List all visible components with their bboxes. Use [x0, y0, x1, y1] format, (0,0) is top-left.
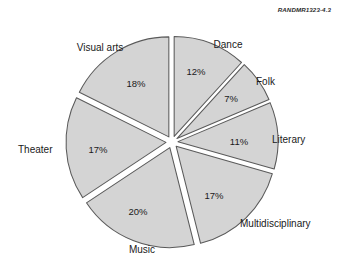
pie-slice-label: Music [129, 244, 155, 255]
pie-slice-label: Dance [214, 39, 243, 50]
pie-slice-label: Theater [18, 144, 53, 155]
pie-chart-figure: RANDMR1323-4.3 12%7%11%17%20%17%18% Danc… [0, 0, 339, 267]
pie-slice-label: Folk [256, 76, 276, 87]
pie-slice-label: Visual arts [77, 42, 124, 53]
pie-slice-value: 12% [186, 66, 206, 77]
pie-slice-value: 11% [230, 136, 249, 147]
pie-slice-value: 18% [126, 78, 146, 89]
pie-slice-value: 17% [204, 190, 224, 201]
pie-slice-label: Multidisciplinary [240, 218, 311, 229]
pie-slice-value: 20% [128, 206, 148, 217]
pie-slice-value: 17% [88, 144, 108, 155]
pie-slice-label: Literary [272, 134, 305, 145]
pie-slice-value: 7% [224, 93, 238, 104]
pie-chart-graphic: 12%7%11%17%20%17%18% DanceFolkLiteraryMu… [0, 0, 339, 267]
